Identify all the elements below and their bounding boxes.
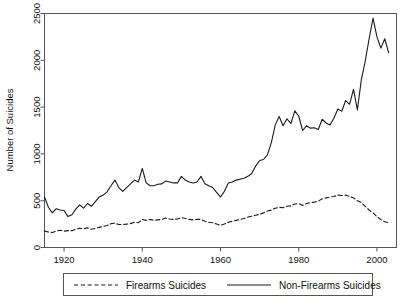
legend-label-non-firearms: Non-Firearms Suicides (279, 280, 381, 291)
line-chart: 05001000150020002500 1920194019601980200… (0, 0, 410, 300)
y-tick-label: 2500 (31, 3, 42, 24)
x-axis: 19201940196019802000 (53, 248, 387, 265)
y-tick-label: 1500 (31, 97, 42, 118)
series-group (45, 18, 389, 232)
x-tick-label: 1920 (53, 254, 74, 265)
x-tick-label: 1960 (210, 254, 231, 265)
series-path-non-firearms-suicides (45, 18, 389, 216)
y-axis: 05001000150020002500 (31, 3, 45, 250)
chart-figure: 05001000150020002500 1920194019601980200… (0, 0, 410, 300)
plot-frame (45, 14, 397, 248)
x-tick-label: 1940 (132, 254, 153, 265)
y-tick-label: 0 (31, 245, 42, 250)
y-tick-label: 500 (31, 193, 42, 209)
y-tick-label: 1000 (31, 143, 42, 164)
chart-legend: Firearms Suicides Non-Firearms Suicides (64, 274, 381, 296)
x-tick-label: 2000 (366, 254, 387, 265)
x-tick-label: 1980 (288, 254, 309, 265)
y-axis-title: Number of Suicides (4, 88, 15, 171)
y-tick-label: 2000 (31, 50, 42, 71)
legend-label-firearms: Firearms Suicides (126, 280, 206, 291)
